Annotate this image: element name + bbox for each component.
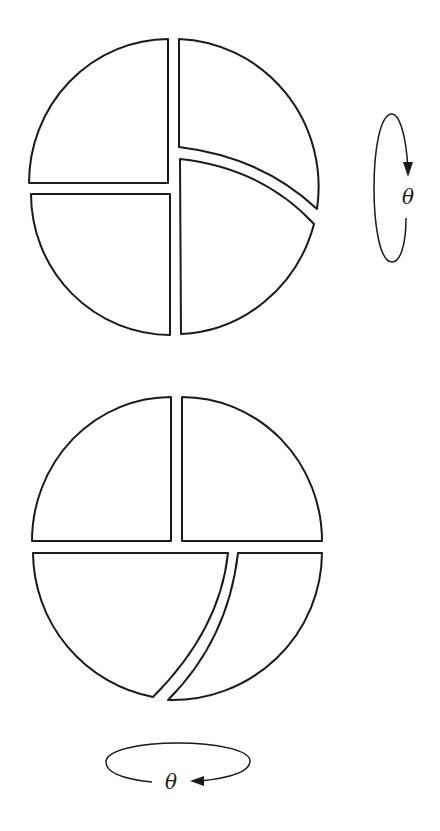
top-rotation-label: θ <box>402 185 414 209</box>
top-disc-lower-left-piece <box>31 194 170 335</box>
bottom-disc-upper-left-piece <box>32 397 171 541</box>
diagram-canvas: θ θ <box>0 0 440 831</box>
top-disc-upper-left-piece <box>29 39 168 183</box>
bottom-rotation-label: θ <box>165 770 177 794</box>
bottom-disc <box>32 397 322 700</box>
horizontal-rotation-arrow-icon <box>106 743 250 786</box>
bottom-disc-upper-right-piece <box>182 397 322 541</box>
top-disc <box>29 39 319 335</box>
